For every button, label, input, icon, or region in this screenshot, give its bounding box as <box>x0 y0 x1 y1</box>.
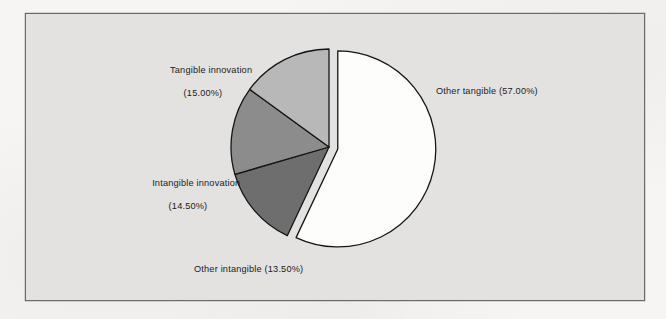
slice-label-other-intangible: Other intangible (13.50%) <box>194 264 303 275</box>
slice-label-tangible-innovation: Tangible innovation (15.00%) <box>142 54 264 121</box>
slice-label-tangible-innovation-name: Tangible innovation <box>170 65 252 75</box>
slice-label-tangible-innovation-value: (15.00%) <box>142 88 264 99</box>
pie-chart-svg <box>26 14 644 300</box>
slice-label-intangible-innovation: Intangible innovation (14.50%) <box>122 167 254 234</box>
pie-chart-plot-area: Tangible innovation (15.00%) Intangible … <box>26 14 644 300</box>
slice-label-other-tangible: Other tangible (57.00%) <box>436 86 538 97</box>
figure-frame: Tangible innovation (15.00%) Intangible … <box>25 13 645 301</box>
slice-label-intangible-innovation-value: (14.50%) <box>122 201 254 212</box>
slice-label-intangible-innovation-name: Intangible innovation <box>152 178 240 188</box>
